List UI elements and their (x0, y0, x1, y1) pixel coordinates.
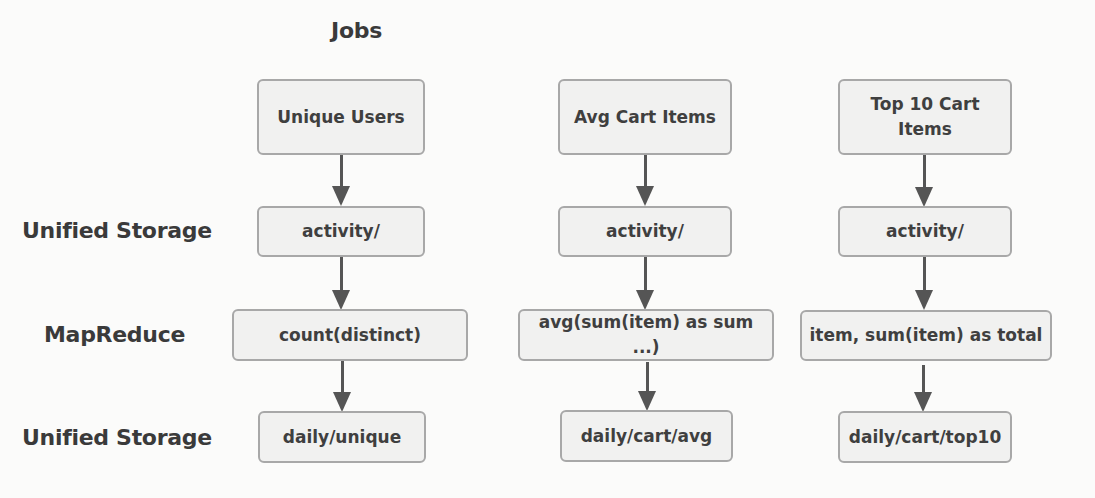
output-box-daily-unique: daily/unique (258, 411, 426, 463)
layer-label-unified-storage-input: Unified Storage (22, 218, 212, 243)
mapreduce-box-item-sum-total: item, sum(item) as total (800, 310, 1052, 361)
mapreduce-box-count-distinct: count(distinct) (232, 309, 468, 361)
storage-box-activity-1: activity/ (257, 206, 425, 257)
jobs-title: Jobs (331, 18, 382, 43)
output-box-daily-cart-avg: daily/cart/avg (560, 410, 733, 462)
storage-box-activity-3: activity/ (838, 206, 1012, 257)
job-box-top-10-cart-items: Top 10 Cart Items (838, 79, 1012, 155)
mapreduce-box-avg-sum: avg(sum(item) as sum ...) (518, 309, 774, 361)
layer-label-unified-storage-output: Unified Storage (22, 425, 212, 450)
job-box-unique-users: Unique Users (257, 79, 425, 155)
layer-label-mapreduce: MapReduce (44, 322, 185, 347)
storage-box-activity-2: activity/ (558, 206, 732, 257)
output-box-daily-cart-top10: daily/cart/top10 (838, 411, 1012, 463)
job-box-avg-cart-items: Avg Cart Items (558, 79, 732, 155)
